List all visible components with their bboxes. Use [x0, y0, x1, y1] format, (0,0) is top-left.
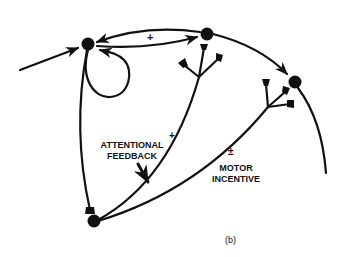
- node-a: [82, 38, 95, 51]
- attentional-pointer-arrow: [138, 164, 148, 182]
- terminal-c-right: [287, 100, 294, 108]
- edge-b-to-c: [213, 34, 287, 74]
- node-b: [201, 28, 214, 41]
- panel-label: (b): [225, 236, 236, 245]
- edge-a-to-d: [80, 50, 90, 210]
- arc-from-c: [298, 88, 326, 173]
- network-diagram: [0, 0, 345, 257]
- node-c: [289, 76, 302, 89]
- motor-incentive-label: MOTOR INCENTIVE: [208, 164, 264, 184]
- self-loop: [86, 50, 129, 97]
- attentional-plus-sign: +: [169, 131, 175, 141]
- reciprocal-plus-sign: +: [147, 32, 153, 43]
- diagram-figure: + + ATTENTIONAL FEEDBACK ± MOTOR INCENTI…: [0, 0, 345, 257]
- terminal-d: [85, 207, 95, 214]
- terminal-c-top: [262, 79, 270, 86]
- terminal-b-top: [200, 44, 208, 50]
- input-edge: [20, 48, 78, 70]
- motor-pm-sign: ±: [228, 147, 234, 157]
- terminal-b-left: [178, 58, 188, 68]
- attentional-feedback-label: ATTENTIONAL FEEDBACK: [92, 141, 172, 161]
- node-d: [88, 215, 101, 228]
